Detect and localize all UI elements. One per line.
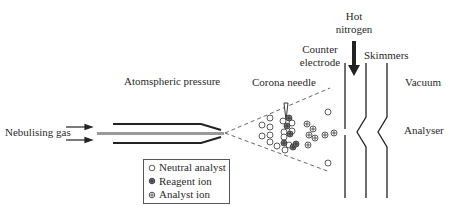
analyst-ion-particle — [305, 142, 311, 148]
sheath-upper — [113, 124, 221, 130]
neutral-analyst-particle — [280, 118, 286, 124]
reagent-ion-particle — [287, 131, 293, 137]
gas-arrow-upper-head — [85, 125, 92, 130]
analyst-ion-particle — [322, 132, 328, 138]
reagent-ion-particle — [293, 141, 299, 147]
label-counter-electrode-line1: Counter — [296, 43, 344, 56]
label-skimmers: Skimmers — [364, 49, 409, 62]
hot-nitrogen-arrow — [348, 41, 360, 76]
legend-item-analyst-ion: Analyst ion — [148, 188, 229, 202]
neutral-analyst-particle — [282, 147, 288, 153]
hot-nitrogen-arrow-shaft — [352, 41, 356, 67]
label-hot-nitrogen: Hot nitrogen — [330, 10, 378, 36]
skimmers — [357, 63, 387, 198]
reagent-ion-particle — [281, 140, 287, 146]
neutral-analyst-particle — [325, 160, 331, 166]
neutral-analyst-particle — [267, 132, 273, 138]
skimmer-2 — [378, 63, 387, 198]
neutral-analyst-particle — [267, 139, 273, 145]
legend-label: Neutral analyst — [159, 161, 226, 175]
label-analyser: Analyser — [404, 124, 444, 137]
open-circle-icon — [148, 164, 156, 172]
analyst-ion-particle — [312, 135, 318, 141]
analyst-ion-particle — [304, 121, 310, 127]
neutral-analyst-particle — [259, 133, 265, 139]
label-nebulising-gas: Nebulising gas — [5, 126, 71, 139]
neutral-analyst-particle — [259, 122, 265, 128]
label-corona-needle: Corona needle — [252, 76, 316, 89]
legend-item-neutral-analyst: Neutral analyst — [148, 161, 229, 175]
legend-label: Analyst ion — [159, 188, 210, 202]
reagent-ion-particle — [284, 123, 290, 129]
dark-crossed-circle-icon — [148, 177, 156, 185]
label-counter-electrode-line2: electrode — [296, 56, 344, 69]
sheath-lower — [113, 137, 221, 143]
hot-nitrogen-arrow-head — [348, 65, 360, 76]
neutral-analyst-particle — [267, 115, 273, 121]
analyst-ion-particle — [306, 132, 312, 138]
label-counter-electrode: Counter electrode — [296, 43, 344, 69]
label-vacuum: Vacuum — [405, 76, 441, 89]
label-hot-nitrogen-line2: nitrogen — [330, 23, 378, 36]
gas-arrow-lower-head — [85, 138, 92, 143]
legend-item-reagent-ion: Reagent ion — [148, 175, 229, 189]
neutral-analyst-particle — [281, 134, 287, 140]
legend-label: Reagent ion — [159, 175, 212, 189]
neutral-analyst-particle — [325, 109, 331, 115]
neutral-analyst-particle — [267, 124, 273, 130]
neutral-analyst-particle — [274, 143, 280, 149]
label-atmospheric-pressure: Atomspheric pressure — [124, 75, 220, 88]
analyst-ion-particle — [310, 126, 316, 132]
reagent-ion-particle — [286, 115, 292, 121]
crossed-circle-icon — [148, 191, 156, 199]
analyst-ion-particle — [331, 130, 337, 136]
legend: Neutral analyst Reagent ion Analyst ion — [143, 159, 230, 204]
label-hot-nitrogen-line1: Hot — [330, 10, 378, 23]
particles — [259, 109, 337, 166]
skimmer-1 — [357, 63, 366, 198]
